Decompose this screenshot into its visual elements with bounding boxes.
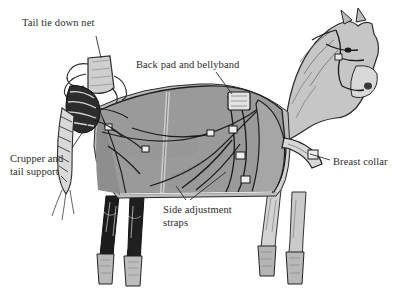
label-crupper-and-tail-support: Crupper and tail support xyxy=(10,152,63,178)
hind-legs xyxy=(97,196,144,286)
shipping-blanket xyxy=(96,86,286,194)
horse-head-and-neck xyxy=(286,8,379,140)
horse-blanket-diagram: Tail tie down net Back pad and bellyband… xyxy=(0,0,402,296)
label-breast-collar: Breast collar xyxy=(333,155,388,168)
label-side-adjustment-straps: Side adjustment straps xyxy=(163,203,232,229)
label-tail-tie-down-net: Tail tie down net xyxy=(22,16,94,29)
front-legs xyxy=(258,190,306,284)
leader-tail-tie-down-net xyxy=(96,36,101,58)
back-pad xyxy=(228,92,250,110)
horse-illustration xyxy=(0,0,402,296)
label-back-pad-and-bellyband: Back pad and bellyband xyxy=(136,58,239,71)
